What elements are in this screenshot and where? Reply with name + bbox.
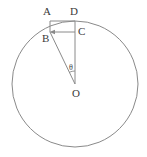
geometry-figure: A D B C O θ [0, 0, 147, 157]
point-label-o: O [72, 88, 80, 99]
angle-label-theta: θ [69, 64, 73, 72]
geometry-canvas [0, 0, 147, 157]
segment-bo [50, 32, 75, 84]
point-label-b: B [42, 33, 49, 44]
point-label-d: D [70, 6, 78, 17]
point-label-a: A [43, 6, 51, 17]
point-label-c: C [78, 26, 85, 37]
